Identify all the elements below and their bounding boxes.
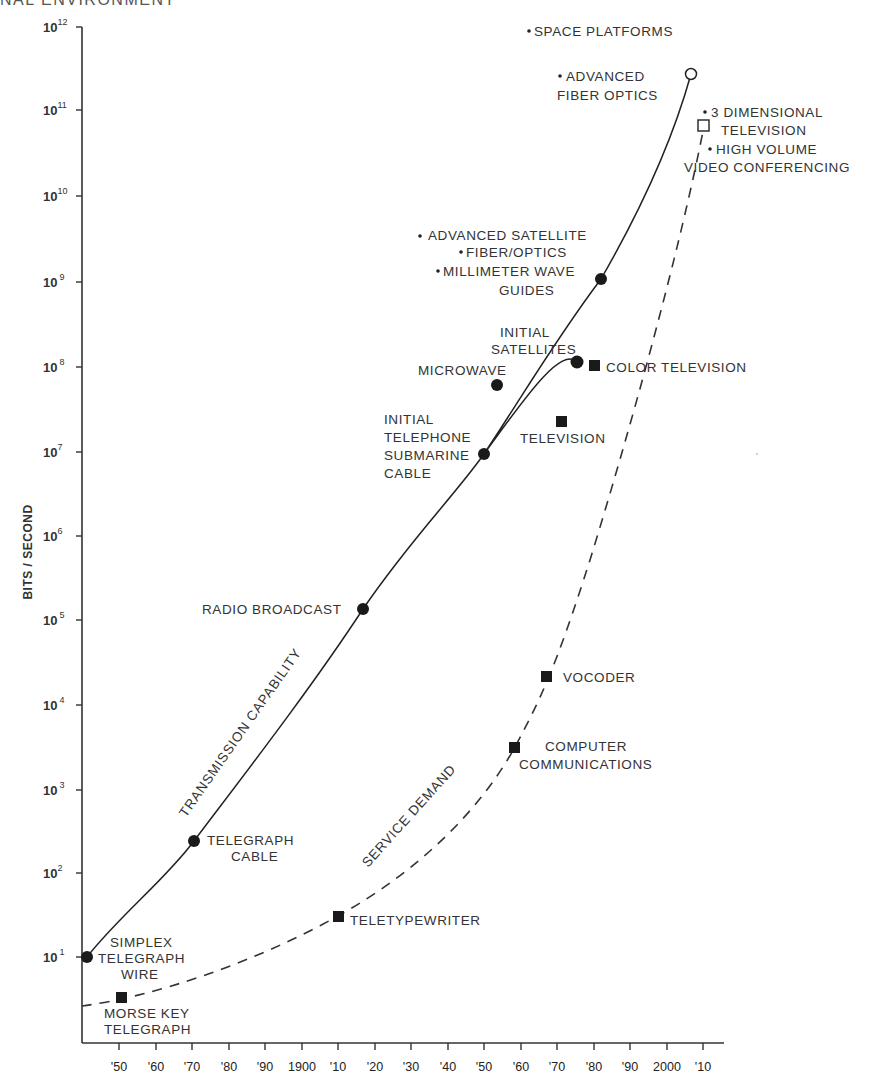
x-tick-label: 1900 bbox=[288, 1060, 316, 1074]
marker-telegraph-cable bbox=[188, 835, 200, 847]
label-telephone: TELEPHONE bbox=[384, 430, 471, 445]
y-tick-label: 108 bbox=[43, 357, 64, 375]
marker-microwave bbox=[491, 379, 503, 391]
label-3-dimensional: 3 DIMENSIONAL bbox=[711, 105, 823, 120]
marker-simplex-telegraph-wire bbox=[81, 951, 93, 963]
marker-radio-broadcast bbox=[357, 603, 369, 615]
marker-3d-television-open bbox=[698, 120, 709, 131]
x-ticks bbox=[119, 1043, 703, 1050]
label-submarine: SUBMARINE bbox=[384, 448, 470, 463]
service-demand-curve bbox=[82, 126, 704, 1006]
y-tick-label: 1011 bbox=[43, 100, 67, 118]
label-simplex: SIMPLEX bbox=[110, 935, 173, 950]
x-tick-label: '60 bbox=[513, 1060, 529, 1074]
x-tick-label: '80 bbox=[586, 1060, 602, 1074]
y-tick-label: 104 bbox=[43, 695, 64, 713]
curve-label-service-demand: SERVICE DEMAND bbox=[359, 762, 459, 870]
y-tick-label: 105 bbox=[43, 610, 64, 628]
y-tick-labels: 1012 1011 1010 109 108 107 106 105 104 1… bbox=[43, 17, 67, 965]
label-video-conferencing: VIDEO CONFERENCING bbox=[684, 160, 850, 175]
label-wire: WIRE bbox=[121, 967, 159, 982]
y-tick-label: 109 bbox=[43, 272, 64, 290]
label-radio-broadcast: RADIO BROADCAST bbox=[202, 602, 342, 617]
x-tick-label: '70 bbox=[184, 1060, 200, 1074]
label-advanced: ADVANCED bbox=[566, 69, 645, 84]
x-tick-label: '20 bbox=[367, 1060, 383, 1074]
x-tick-label: '60 bbox=[148, 1060, 164, 1074]
marker-initial-satellites bbox=[571, 356, 584, 369]
x-tick-label: '40 bbox=[440, 1060, 456, 1074]
x-tick-label: '80 bbox=[221, 1060, 237, 1074]
x-tick-label: '70 bbox=[549, 1060, 565, 1074]
label-television-3d: TELEVISION bbox=[721, 123, 807, 138]
x-tick-label: '10 bbox=[695, 1060, 711, 1074]
service-markers bbox=[116, 120, 709, 1003]
marker-initial-telephone-submarine-cable bbox=[478, 448, 490, 460]
marker-television bbox=[556, 416, 567, 427]
marker-teletypewriter bbox=[333, 911, 344, 922]
x-tick-label: 2000 bbox=[653, 1060, 681, 1074]
label-color-television: COLOR TELEVISION bbox=[606, 360, 747, 375]
y-tick-label: 106 bbox=[43, 526, 62, 544]
y-tick-label: 1012 bbox=[43, 17, 67, 35]
y-tick-label: 101 bbox=[43, 947, 64, 965]
curve-label-transmission-capability: TRANSMISSION CAPABILITY bbox=[176, 646, 304, 820]
y-tick-label: 107 bbox=[43, 442, 62, 460]
label-guides: GUIDES bbox=[499, 283, 554, 298]
label-advanced-satellite: ADVANCED SATELLITE bbox=[428, 228, 587, 243]
speck bbox=[756, 453, 758, 455]
label-high-volume: HIGH VOLUME bbox=[716, 142, 817, 157]
y-tick-label: 102 bbox=[43, 863, 62, 881]
label-morse-key: MORSE KEY bbox=[104, 1006, 190, 1021]
y-tick-label: 1010 bbox=[43, 186, 67, 204]
y-ticks bbox=[76, 27, 82, 957]
marker-advanced-satellite bbox=[595, 273, 607, 285]
label-telegraph-wire: TELEGRAPH bbox=[98, 951, 185, 966]
marker-computer-communications bbox=[509, 742, 520, 753]
x-tick-label: '50 bbox=[111, 1060, 127, 1074]
x-tick-label: '50 bbox=[476, 1060, 492, 1074]
label-teletypewriter: TELETYPEWRITER bbox=[350, 913, 481, 928]
transmission-capability-curve bbox=[87, 74, 691, 957]
y-tick-label: 103 bbox=[43, 780, 64, 798]
label-telegraph-cable-2: CABLE bbox=[231, 849, 278, 864]
label-initial: INITIAL bbox=[384, 412, 434, 427]
x-tick-label: '10 bbox=[330, 1060, 346, 1074]
label-vocoder: VOCODER bbox=[563, 670, 635, 685]
x-tick-label: '30 bbox=[403, 1060, 419, 1074]
label-initial-satellites-2: SATELLITES bbox=[491, 342, 576, 357]
log-line-chart: 1012 1011 1010 109 108 107 106 105 104 1… bbox=[0, 0, 880, 1083]
x-tick-label: '90 bbox=[257, 1060, 273, 1074]
label-computer: COMPUTER bbox=[545, 739, 627, 754]
label-fiber-optics: FIBER OPTICS bbox=[557, 88, 658, 103]
label-communications: COMMUNICATIONS bbox=[519, 757, 652, 772]
annotations: SPACE PLATFORMS ADVANCED FIBER OPTICS 3 … bbox=[98, 24, 850, 1037]
marker-space-platforms-open bbox=[686, 69, 697, 80]
label-microwave: MICROWAVE bbox=[418, 363, 507, 378]
marker-color-television bbox=[589, 360, 600, 371]
label-initial-satellites-1: INITIAL bbox=[500, 325, 550, 340]
marker-vocoder bbox=[541, 671, 552, 682]
label-television: TELEVISION bbox=[520, 431, 606, 446]
label-cable: CABLE bbox=[384, 466, 431, 481]
label-morse-telegraph: TELEGRAPH bbox=[104, 1022, 191, 1037]
label-fiber-optics-2: FIBER/OPTICS bbox=[466, 245, 567, 260]
x-tick-label: '90 bbox=[622, 1060, 638, 1074]
x-tick-labels: '50 '60 '70 '80 '90 1900 '10 '20 '30 '40… bbox=[111, 1060, 711, 1074]
label-millimeter-wave: MILLIMETER WAVE bbox=[443, 264, 575, 279]
marker-morse-key-telegraph bbox=[116, 992, 127, 1003]
y-axis-label: BITS / SECOND bbox=[21, 504, 35, 599]
label-space-platforms: SPACE PLATFORMS bbox=[534, 24, 673, 39]
label-telegraph-cable-1: TELEGRAPH bbox=[207, 833, 294, 848]
